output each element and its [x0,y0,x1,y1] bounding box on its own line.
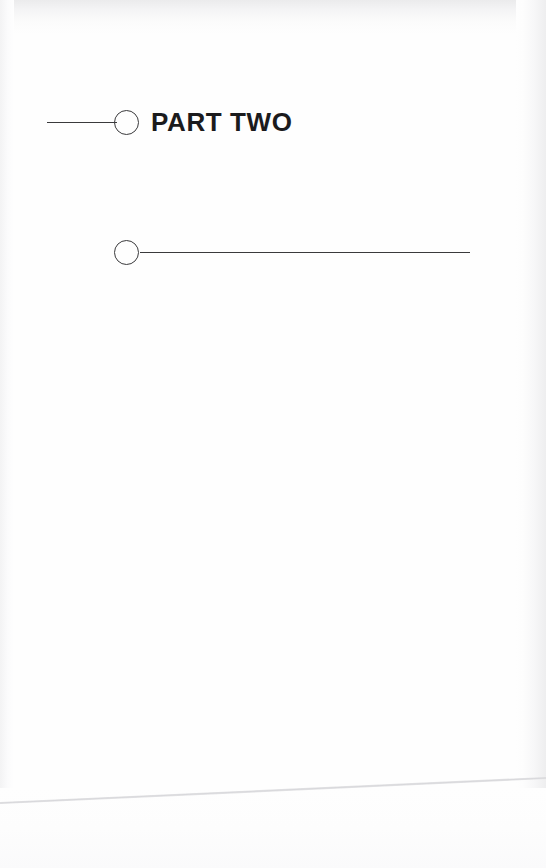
divider-rule-leading [47,122,117,123]
divider-circle-icon-bottom [114,240,139,265]
part-title-label: PART TWO [151,106,293,138]
part-title-divider-bottom [0,236,546,270]
part-divider-page: PART TWO [0,0,546,868]
divider-circle-icon-top [114,110,139,135]
part-title-divider-top: PART TWO [0,106,546,140]
divider-rule-trailing [140,252,470,253]
